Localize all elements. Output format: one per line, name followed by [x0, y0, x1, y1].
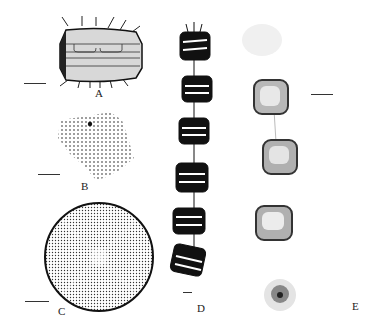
panel-label-b: B: [81, 180, 88, 192]
panel-a-drawing: [0, 0, 160, 105]
panel-e: E: [230, 0, 374, 331]
scale-bar-c: [25, 301, 49, 302]
panel-label-a: A: [95, 87, 103, 99]
panel-e-photo: [230, 0, 374, 331]
panel-c-drawing: [0, 200, 170, 331]
panel-b: B: [0, 108, 160, 200]
scale-bar-d: [183, 292, 192, 293]
panel-label-d: D: [197, 302, 205, 314]
scale-bar-b: [38, 174, 60, 175]
panel-d-drawing: [160, 0, 230, 331]
scale-bar-e: [311, 94, 333, 95]
panel-a: A: [0, 0, 160, 105]
scale-bar-a: [24, 83, 46, 84]
panel-label-c: C: [58, 305, 65, 317]
panel-label-e: E: [352, 300, 359, 312]
panel-c: C: [0, 200, 170, 331]
panel-b-drawing: [0, 108, 160, 200]
panel-d: D: [160, 0, 230, 331]
